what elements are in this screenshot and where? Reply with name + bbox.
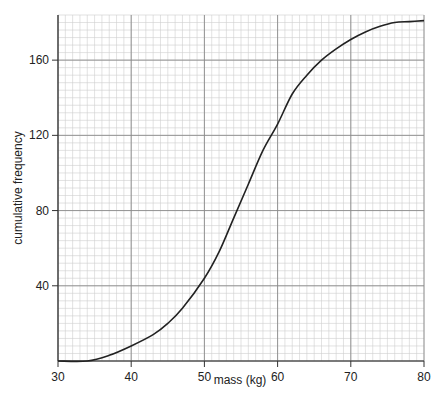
x-axis-label: mass (kg): [214, 373, 267, 387]
x-tick-label: 70: [344, 370, 358, 384]
y-tick-label: 40: [36, 279, 50, 293]
x-tick-label: 40: [125, 370, 139, 384]
x-tick-label: 30: [51, 370, 65, 384]
x-tick-label: 60: [271, 370, 285, 384]
y-tick-label: 80: [36, 204, 50, 218]
y-tick-label: 120: [29, 128, 49, 142]
y-tick-label: 160: [29, 53, 49, 67]
x-tick-label: 50: [198, 370, 212, 384]
y-axis-label: cumulative frequency: [11, 131, 25, 244]
cumulative-frequency-chart: 304050607080 4080120160 mass (kg) cumula…: [0, 0, 443, 410]
x-tick-label: 80: [417, 370, 431, 384]
minor-grid: [58, 15, 424, 361]
y-axis-ticks: 4080120160: [29, 53, 58, 293]
